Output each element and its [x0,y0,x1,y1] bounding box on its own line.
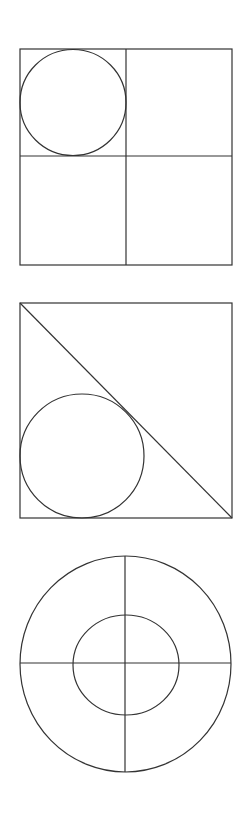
figure-square-quadrants [20,49,232,265]
figure-square-diagonal [20,303,232,518]
tangent-circle [20,394,144,518]
figure-concentric-circles [20,556,231,772]
inner-circle [73,615,179,715]
inscribed-circle [20,50,126,156]
diagram-canvas [0,0,241,815]
diagonal-line [20,303,232,518]
